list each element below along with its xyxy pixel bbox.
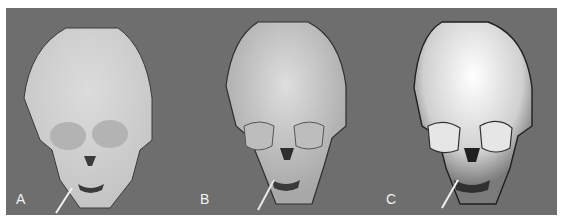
panel-c: C <box>376 8 557 215</box>
panel-label-c: C <box>386 191 396 207</box>
panel-label-b: B <box>200 191 209 207</box>
skull-a-image <box>6 8 190 215</box>
skull-c-image <box>376 8 557 215</box>
panel-b: B <box>190 8 376 215</box>
skull-b-image <box>190 8 376 215</box>
figure-panel-group: A B <box>6 8 557 215</box>
panel-label-a: A <box>16 191 25 207</box>
panel-a: A <box>6 8 190 215</box>
